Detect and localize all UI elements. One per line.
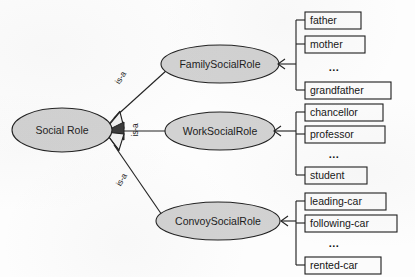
node-work-social-role[interactable]: WorkSocialRole (165, 112, 275, 150)
leaf-label-grandfather: grandfather (310, 84, 364, 96)
leaf-label-chancellor: chancellor (310, 106, 358, 118)
edge-label-is-a-family: is-a (113, 69, 129, 86)
node-social-role[interactable]: Social Role (12, 108, 112, 152)
leaf-item[interactable]: following-car (305, 215, 397, 232)
leaf-label-following-car: following-car (310, 217, 369, 229)
leaf-group-family: father mother ... grandfather (305, 12, 391, 99)
taxonomy-diagram: is-a is-a is-a Social Role FamilySocialR… (0, 0, 415, 277)
leaf-label-student: student (310, 169, 345, 181)
leaf-label-father: father (310, 14, 337, 26)
leaf-label-mother: mother (310, 38, 343, 50)
bracket-family (278, 20, 305, 90)
leaf-item[interactable]: rented-car (305, 257, 381, 274)
leaf-label-rented-car: rented-car (310, 259, 358, 271)
bracket-work (274, 112, 305, 175)
diagram-canvas: is-a is-a is-a Social Role FamilySocialR… (0, 0, 415, 277)
edge-label-is-a-convoy: is-a (114, 171, 129, 188)
node-social-role-label: Social Role (35, 124, 88, 136)
bracket-convoy (281, 201, 305, 265)
leaf-ellipsis-work: ... (329, 148, 340, 160)
leaf-item[interactable]: professor (305, 126, 385, 143)
node-family-social-role[interactable]: FamilySocialRole (161, 45, 279, 83)
node-work-social-role-label: WorkSocialRole (183, 125, 258, 137)
node-convoy-social-role-label: ConvoySocialRole (175, 215, 261, 227)
leaf-ellipsis-family: ... (329, 61, 340, 73)
leaf-item[interactable]: father (305, 12, 361, 29)
edge-label-is-a-work: is-a (130, 123, 140, 136)
leaf-item[interactable]: leading-car (305, 193, 386, 210)
leaf-item[interactable]: grandfather (305, 82, 391, 99)
node-convoy-social-role[interactable]: ConvoySocialRole (156, 202, 280, 240)
leaf-ellipsis-convoy: ... (329, 237, 340, 249)
leaf-group-convoy: leading-car following-car ... rented-car (305, 193, 397, 274)
edge-group (114, 70, 167, 215)
leaf-label-professor: professor (310, 128, 354, 140)
leaf-item[interactable]: student (305, 167, 367, 184)
leaf-label-leading-car: leading-car (310, 195, 362, 207)
leaf-item[interactable]: chancellor (305, 104, 383, 121)
leaf-group-work: chancellor professor ... student (305, 104, 385, 184)
node-family-social-role-label: FamilySocialRole (179, 58, 260, 70)
leaf-item[interactable]: mother (305, 36, 365, 53)
